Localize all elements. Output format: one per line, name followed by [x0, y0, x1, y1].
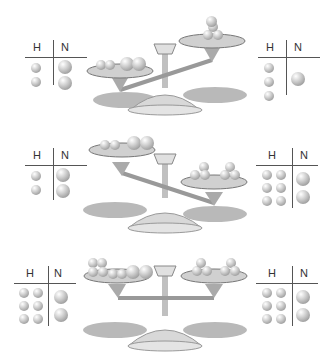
n-label: N	[61, 149, 69, 161]
left-table: H N	[25, 148, 87, 218]
n-label: N	[61, 41, 69, 53]
h-label: H	[26, 267, 34, 279]
left-table: H N	[14, 266, 76, 336]
panel-2: H N H N	[0, 118, 331, 236]
panel-1: H N H N	[0, 0, 331, 118]
n-label: N	[300, 267, 308, 279]
n-label: N	[294, 41, 302, 53]
left-table: H N	[25, 40, 87, 110]
h-label: H	[268, 267, 276, 279]
n-label: N	[54, 267, 62, 279]
panel-3: H N H N	[0, 236, 331, 353]
h-label: H	[266, 41, 274, 53]
right-table: H N	[256, 148, 318, 218]
h-label: H	[33, 149, 41, 161]
n-label: N	[300, 149, 308, 161]
h-label: H	[268, 149, 276, 161]
right-table: H N	[256, 266, 318, 336]
right-table: H N	[258, 40, 320, 110]
h-label: H	[33, 41, 41, 53]
